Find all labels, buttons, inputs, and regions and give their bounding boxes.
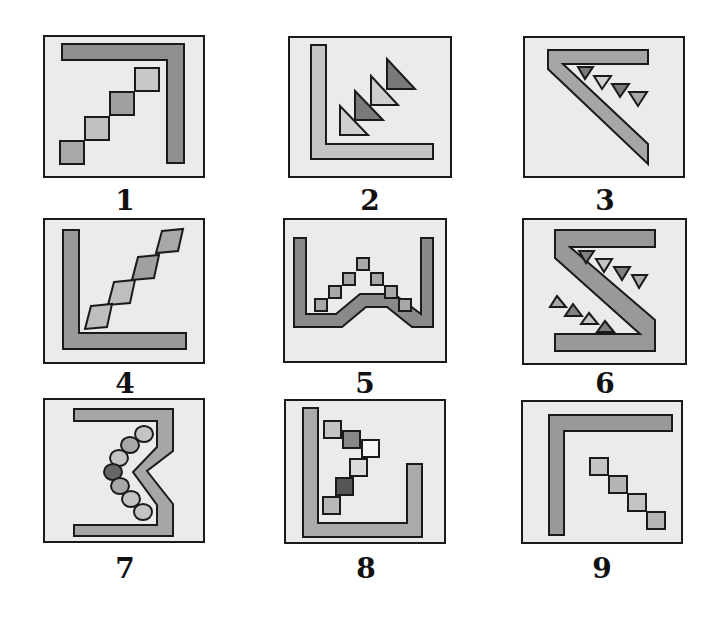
square-6 xyxy=(323,497,340,514)
square-4 xyxy=(647,512,665,529)
panel-5-label: 5 xyxy=(335,369,395,399)
panel-3-label: 3 xyxy=(575,186,635,216)
panel-1-label: 1 xyxy=(95,186,155,216)
panel-6-figure xyxy=(522,218,687,365)
panel-6-label: 6 xyxy=(575,369,635,399)
square-1 xyxy=(324,421,341,438)
panel-8-figure xyxy=(284,399,446,544)
square-right-3 xyxy=(371,273,383,285)
panel-2-label: 2 xyxy=(340,186,400,216)
square-3 xyxy=(362,440,379,457)
square-3 xyxy=(628,494,646,511)
circle-7 xyxy=(134,504,152,520)
panel-2-figure xyxy=(288,36,452,178)
square-top xyxy=(357,258,369,270)
panel-6 xyxy=(522,218,687,365)
square-2 xyxy=(85,117,109,140)
panel-9 xyxy=(521,400,683,544)
square-left-2 xyxy=(329,286,341,298)
square-2 xyxy=(609,476,627,493)
square-left-1 xyxy=(315,299,327,311)
square-4 xyxy=(350,459,367,476)
panel-3-figure xyxy=(523,36,685,178)
square-4 xyxy=(135,68,159,91)
panel-5 xyxy=(283,218,447,363)
square-1 xyxy=(60,141,84,164)
square-3 xyxy=(110,92,134,115)
square-right-1 xyxy=(399,299,411,311)
panel-8-label: 8 xyxy=(336,554,396,584)
panel-1-figure xyxy=(43,35,205,178)
square-right-2 xyxy=(385,286,397,298)
panel-7 xyxy=(43,398,205,543)
panel-8 xyxy=(284,399,446,544)
panel-3 xyxy=(523,36,685,178)
square-2 xyxy=(343,431,360,448)
panel-4 xyxy=(43,218,205,364)
panel-9-figure xyxy=(521,400,683,544)
panel-9-label: 9 xyxy=(572,554,632,584)
panel-7-figure xyxy=(43,398,205,543)
square-1 xyxy=(590,458,608,475)
panel-7-label: 7 xyxy=(95,554,155,584)
panel-4-figure xyxy=(43,218,205,364)
panel-2 xyxy=(288,36,452,178)
panel-1 xyxy=(43,35,205,178)
square-5 xyxy=(336,478,353,495)
panel-4-label: 4 xyxy=(95,369,155,399)
square-left-3 xyxy=(343,273,355,285)
panel-5-figure xyxy=(283,218,447,363)
